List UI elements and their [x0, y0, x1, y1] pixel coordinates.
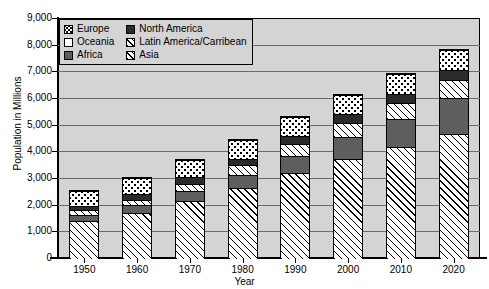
bar-segment-africa-1990 — [281, 157, 309, 174]
x-tick-label: 2020 — [429, 264, 479, 275]
y-tick-label: 1,000 — [0, 226, 52, 236]
legend-label-africa: Africa — [77, 49, 103, 61]
legend-label-north-america: North America — [139, 23, 202, 35]
legend-item-africa: Africa — [64, 49, 114, 61]
x-tick-label: 2010 — [376, 264, 426, 275]
bar-segment-north-america-1980 — [229, 160, 257, 167]
chart-legend: Europe North America Oceania Latin Ameri… — [59, 19, 253, 65]
bar-1960[interactable] — [122, 177, 152, 258]
bar-segment-europe-2000 — [334, 96, 362, 115]
gridline — [58, 151, 480, 152]
y-tick-mark — [52, 45, 58, 46]
y-tick-mark — [52, 258, 58, 259]
bar-segment-europe-1950 — [70, 192, 98, 207]
x-tick-label: 2000 — [323, 264, 373, 275]
bar-segment-north-america-2020 — [440, 71, 468, 81]
bar-segment-latin-america-1980 — [229, 166, 257, 176]
legend-item-europe: Europe — [64, 23, 114, 35]
bar-segment-africa-2020 — [440, 99, 468, 135]
x-axis-title: Year — [0, 276, 489, 287]
bar-segment-africa-1970 — [176, 192, 204, 202]
x-tick-label: 1950 — [59, 264, 109, 275]
bar-segment-europe-2010 — [387, 75, 415, 95]
population-stacked-bar-chart: 01,0002,0003,0004,0005,0006,0007,0008,00… — [0, 0, 489, 289]
bar-segment-latin-america-2010 — [387, 104, 415, 120]
bar-segment-asia-1990 — [281, 174, 309, 259]
legend-item-oceania: Oceania — [64, 36, 114, 48]
bar-segment-latin-america-2020 — [440, 81, 468, 99]
bar-segment-asia-2000 — [334, 160, 362, 259]
bar-segment-africa-1980 — [229, 176, 257, 189]
legend-item-asia: Asia — [126, 49, 246, 61]
y-tick-mark — [52, 71, 58, 72]
x-tick-label: 1980 — [218, 264, 268, 275]
bar-segment-north-america-2000 — [334, 115, 362, 123]
y-tick-label: 6,000 — [0, 93, 52, 103]
x-tick-label: 1970 — [165, 264, 215, 275]
y-tick-mark — [52, 125, 58, 126]
legend-label-latin-america: Latin America/Carribean — [139, 36, 246, 48]
bar-segment-europe-1970 — [176, 161, 204, 178]
bar-segment-asia-1970 — [176, 202, 204, 259]
y-tick-label: 3,000 — [0, 173, 52, 183]
legend-label-asia: Asia — [139, 49, 158, 61]
y-tick-label: 9,000 — [0, 13, 52, 23]
y-tick-label: 2,000 — [0, 200, 52, 210]
bar-segment-europe-1980 — [229, 141, 257, 160]
bar-segment-latin-america-1990 — [281, 145, 309, 157]
bar-segment-latin-america-1970 — [176, 185, 204, 193]
asia-swatch-icon — [126, 51, 135, 60]
legend-item-north-america: North America — [126, 23, 246, 35]
bar-segment-latin-america-2000 — [334, 124, 362, 138]
bar-segment-europe-2020 — [440, 51, 468, 71]
bar-1990[interactable] — [280, 116, 310, 258]
y-tick-label: 8,000 — [0, 40, 52, 50]
x-tick-mark — [454, 258, 455, 263]
y-tick-mark — [52, 18, 58, 19]
bar-2000[interactable] — [333, 94, 363, 258]
y-tick-label: 4,000 — [0, 146, 52, 156]
bar-segment-africa-1960 — [123, 206, 151, 214]
africa-swatch-icon — [64, 51, 73, 60]
bar-1980[interactable] — [228, 139, 258, 258]
europe-swatch-icon — [64, 25, 73, 34]
y-tick-mark — [52, 151, 58, 152]
x-axis-line — [50, 257, 487, 259]
bar-2010[interactable] — [386, 73, 416, 258]
y-tick-mark — [52, 98, 58, 99]
bar-segment-asia-2020 — [440, 135, 468, 259]
gridline — [58, 125, 480, 126]
y-tick-label: 7,000 — [0, 66, 52, 76]
latin-america-swatch-icon — [126, 38, 135, 47]
y-tick-mark — [52, 231, 58, 232]
bar-segment-asia-2010 — [387, 148, 415, 259]
bar-segment-africa-2000 — [334, 138, 362, 160]
bar-segment-europe-1960 — [123, 179, 151, 195]
legend-label-europe: Europe — [77, 23, 109, 35]
x-tick-label: 1960 — [112, 264, 162, 275]
oceania-swatch-icon — [64, 38, 73, 47]
gridline — [58, 71, 480, 72]
legend-label-oceania: Oceania — [77, 36, 114, 48]
bar-segment-north-america-2010 — [387, 95, 415, 104]
y-tick-mark — [52, 205, 58, 206]
bar-segment-north-america-1990 — [281, 137, 309, 145]
y-tick-label: 5,000 — [0, 120, 52, 130]
x-tick-label: 1990 — [270, 264, 320, 275]
bar-segment-africa-2010 — [387, 120, 415, 148]
bar-1950[interactable] — [69, 190, 99, 258]
y-tick-mark — [52, 178, 58, 179]
bar-segment-asia-1960 — [123, 214, 151, 259]
bar-segment-europe-1990 — [281, 118, 309, 137]
y-axis-title: Population in Millions — [12, 49, 23, 199]
y-tick-label: 0 — [0, 253, 52, 263]
north-america-swatch-icon — [126, 25, 135, 34]
gridline — [58, 98, 480, 99]
bar-2020[interactable] — [439, 49, 469, 258]
bar-segment-asia-1980 — [229, 189, 257, 259]
bar-segment-asia-1950 — [70, 222, 98, 259]
legend-item-latin-america: Latin America/Carribean — [126, 36, 246, 48]
bar-1970[interactable] — [175, 159, 205, 258]
